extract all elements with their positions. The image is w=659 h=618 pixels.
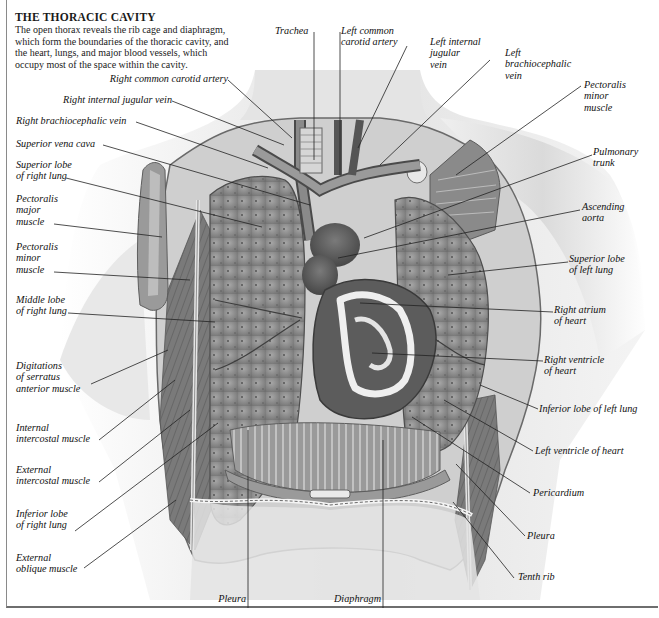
label-line: major [16, 204, 58, 215]
label-line: Pectoralis [16, 193, 58, 204]
label-line: oblique muscle [16, 563, 77, 574]
label-line: trunk [593, 157, 638, 168]
label-line: muscle [16, 264, 58, 275]
label-line: Tenth rib [518, 571, 555, 582]
label-line: brachiocephalic [505, 58, 571, 69]
label-line: vein [430, 59, 481, 70]
label-pleura-right: Pleura [527, 530, 555, 541]
label-line: Superior lobe [16, 159, 72, 170]
label-line: of right lung [16, 519, 68, 530]
label-line: of right lung [16, 170, 72, 181]
label-line: Inferior lobe [16, 508, 68, 519]
label-superior-lobe-left-lung: Superior lobe of left lung [569, 253, 625, 276]
label-line: Pleura [190, 593, 246, 604]
label-line: Pleura [527, 530, 555, 541]
label-line: Superior lobe [569, 253, 625, 264]
label-superior-lobe-right-lung: Superior lobe of right lung [16, 159, 72, 182]
label-tenth-rib: Tenth rib [518, 571, 555, 582]
label-left-internal-jugular-vein: Left internal jugular vein [430, 36, 481, 70]
label-line: of heart [554, 315, 606, 326]
label-line: carotid artery [341, 36, 398, 47]
label-left-common-carotid-artery: Left common carotid artery [341, 25, 398, 48]
label-line: Ascending [582, 201, 624, 212]
label-line: Internal [16, 422, 90, 433]
label-line: Left internal [430, 36, 481, 47]
label-line: intercostal muscle [16, 475, 90, 486]
label-left-brachiocephalic-vein: Left brachiocephalic vein [505, 47, 571, 81]
label-line: Left ventricle of heart [535, 445, 624, 456]
label-line: of heart [544, 365, 604, 376]
label-left-ventricle-of-heart: Left ventricle of heart [535, 445, 624, 456]
label-external-oblique-muscle: External oblique muscle [16, 552, 77, 575]
label-line: of left lung [569, 264, 625, 275]
label-inferior-lobe-left-lung: Inferior lobe of left lung [539, 403, 637, 414]
label-right-internal-jugular-vein: Right internal jugular vein [40, 94, 172, 105]
label-line: Superior vena cava [16, 138, 95, 149]
label-line: Right atrium [554, 304, 606, 315]
label-line: Pericardium [533, 487, 584, 498]
label-line: Pectoralis [16, 241, 58, 252]
label-internal-intercostal-muscle: Internal intercostal muscle [16, 422, 90, 445]
label-external-intercostal-muscle: External intercostal muscle [16, 464, 90, 487]
label-line: Pectoralis [584, 79, 626, 90]
label-right-common-carotid-artery: Right common carotid artery [100, 73, 228, 84]
label-line: muscle [584, 102, 626, 113]
label-inferior-lobe-right-lung: Inferior lobe of right lung [16, 508, 68, 531]
label-line: of serratus [16, 371, 80, 382]
label-line: anterior muscle [16, 383, 80, 394]
label-line: Left [505, 47, 571, 58]
label-pulmonary-trunk: Pulmonary trunk [593, 146, 638, 169]
label-line: Left common [341, 25, 398, 36]
label-middle-lobe-right-lung: Middle lobe of right lung [16, 294, 67, 317]
label-line: minor [584, 90, 626, 101]
label-line: muscle [16, 216, 58, 227]
label-line: Right common carotid artery [100, 73, 228, 84]
label-line: External [16, 552, 77, 563]
label-superior-vena-cava: Superior vena cava [16, 138, 95, 149]
label-line: vein [505, 70, 571, 81]
label-line: Right internal jugular vein [40, 94, 172, 105]
label-diaphragm: Diaphragm [310, 593, 381, 604]
label-digitations-serratus: Digitations of serratus anterior muscle [16, 360, 80, 394]
label-line: Middle lobe [16, 294, 67, 305]
label-line: Right ventricle [544, 354, 604, 365]
label-line: intercostal muscle [16, 433, 90, 444]
label-line: Inferior lobe of left lung [539, 403, 637, 414]
label-pectoralis-major-muscle: Pectoralis major muscle [16, 193, 58, 227]
label-line: Digitations [16, 360, 80, 371]
label-pericardium: Pericardium [533, 487, 584, 498]
label-line: Trachea [275, 25, 308, 36]
label-line: Diaphragm [310, 593, 381, 604]
label-line: of right lung [16, 305, 67, 316]
label-pectoralis-minor-muscle-right: Pectoralis minor muscle [584, 79, 626, 113]
label-pectoralis-minor-muscle-left: Pectoralis minor muscle [16, 241, 58, 275]
label-line: jugular [430, 47, 481, 58]
label-line: aorta [582, 212, 624, 223]
label-line: Pulmonary [593, 146, 638, 157]
label-right-brachiocephalic-vein: Right brachiocephalic vein [16, 115, 126, 126]
label-line: External [16, 464, 90, 475]
label-right-atrium-of-heart: Right atrium of heart [554, 304, 606, 327]
label-pleura-bottom: Pleura [190, 593, 246, 604]
label-right-ventricle-of-heart: Right ventricle of heart [544, 354, 604, 377]
label-line: minor [16, 252, 58, 263]
label-trachea: Trachea [275, 25, 308, 36]
label-ascending-aorta: Ascending aorta [582, 201, 624, 224]
label-line: Right brachiocephalic vein [16, 115, 126, 126]
